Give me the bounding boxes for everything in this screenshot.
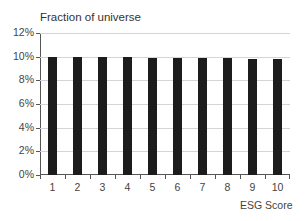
y-tick — [36, 80, 40, 81]
x-tick-label: 9 — [243, 181, 263, 193]
bar — [73, 57, 82, 175]
y-tick-label: 0% — [0, 168, 34, 180]
x-tick — [165, 175, 166, 179]
x-tick-label: 4 — [118, 181, 138, 193]
bar — [48, 57, 57, 175]
x-tick-label: 10 — [268, 181, 288, 193]
x-tick-label: 8 — [218, 181, 238, 193]
y-tick — [36, 151, 40, 152]
bar — [273, 59, 282, 175]
y-tick — [36, 57, 40, 58]
x-tick-label: 6 — [168, 181, 188, 193]
x-tick-label: 5 — [143, 181, 163, 193]
y-tick — [36, 33, 40, 34]
x-tick — [140, 175, 141, 179]
bar — [98, 57, 107, 175]
bar — [173, 58, 182, 175]
chart-title: Fraction of universe — [40, 11, 141, 23]
y-tick — [36, 104, 40, 105]
x-tick-label: 1 — [43, 181, 63, 193]
bar — [123, 57, 132, 175]
x-tick — [40, 175, 41, 179]
bar — [248, 59, 257, 175]
y-tick-label: 12% — [0, 26, 34, 38]
x-tick — [240, 175, 241, 179]
x-tick — [190, 175, 191, 179]
x-tick — [265, 175, 266, 179]
y-tick-label: 8% — [0, 73, 34, 85]
plot-area — [40, 33, 290, 175]
x-tick — [65, 175, 66, 179]
x-tick-label: 2 — [68, 181, 88, 193]
bar — [148, 58, 157, 175]
x-tick — [115, 175, 116, 179]
y-tick-label: 2% — [0, 144, 34, 156]
y-tick — [36, 128, 40, 129]
x-tick — [90, 175, 91, 179]
x-tick — [289, 175, 290, 179]
bar — [198, 58, 207, 175]
y-tick-label: 6% — [0, 97, 34, 109]
x-axis-title: ESG Score — [240, 199, 293, 211]
x-tick — [215, 175, 216, 179]
y-tick-label: 4% — [0, 121, 34, 133]
x-tick-label: 7 — [193, 181, 213, 193]
y-tick-label: 10% — [0, 50, 34, 62]
gridline — [40, 33, 290, 34]
x-tick-label: 3 — [93, 181, 113, 193]
bar — [223, 58, 232, 175]
